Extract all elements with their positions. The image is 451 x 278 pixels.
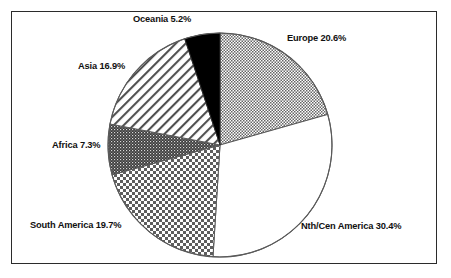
pie-slices-group bbox=[108, 33, 332, 257]
pie-label-europe: Europe 20.6% bbox=[287, 33, 346, 44]
pie-chart-svg bbox=[0, 0, 451, 278]
pie-label-africa: Africa 7.3% bbox=[52, 140, 100, 151]
pie-label-oceania: Oceania 5.2% bbox=[133, 14, 191, 25]
pie-chart-figure: Oceania 5.2% Europe 20.6% Asia 16.9% Afr… bbox=[0, 0, 451, 278]
pie-label-south-america: South America 19.7% bbox=[30, 220, 121, 231]
pie-label-nth-cen-america: Nth/Cen America 30.4% bbox=[301, 221, 401, 232]
pie-label-asia: Asia 16.9% bbox=[78, 61, 125, 72]
